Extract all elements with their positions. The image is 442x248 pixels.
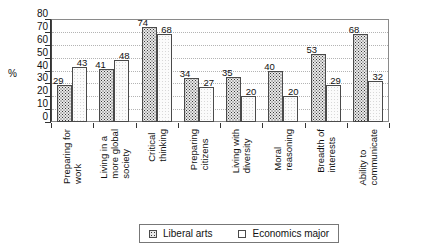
bar: 35 <box>226 77 241 122</box>
bar-value-label: 29 <box>330 76 341 86</box>
legend-item-2: Economics major <box>238 228 329 239</box>
x-category-text: Moralreasoning <box>272 129 294 171</box>
x-tickmark <box>347 123 348 128</box>
bar-value-label: 53 <box>307 45 318 55</box>
x-category-text: Living in amore globalsociety <box>98 129 131 179</box>
bar: 20 <box>283 96 298 122</box>
y-tickmark <box>45 109 51 110</box>
y-tick-30: 30 <box>37 73 48 83</box>
bar: 20 <box>241 96 256 122</box>
bar: 29 <box>57 85 72 122</box>
bar-group: 6832 <box>347 19 389 122</box>
y-tickmark <box>45 58 51 59</box>
y-tick-60: 60 <box>37 35 48 45</box>
x-category-text: Living withdiversity <box>230 129 252 173</box>
x-axis-category-labels: Preparing forworkLiving in amore globals… <box>51 129 389 191</box>
y-tickmark <box>45 96 51 97</box>
y-tick-40: 40 <box>37 61 48 71</box>
bar-value-label: 34 <box>180 69 191 79</box>
y-tick-50: 50 <box>37 48 48 58</box>
bar: 34 <box>184 78 199 122</box>
bar: 40 <box>268 71 283 123</box>
x-category-line: interests <box>326 129 337 173</box>
bar: 41 <box>99 69 114 122</box>
bar: 48 <box>114 60 129 122</box>
bar: 68 <box>353 34 368 122</box>
x-category-line: Living with <box>230 129 241 173</box>
x-category-6: Moralreasoning <box>262 129 304 191</box>
x-category-8: Ability tocommunicate <box>347 129 389 191</box>
legend-swatch-icon <box>149 230 157 238</box>
bar: 43 <box>72 67 87 122</box>
x-tickmark <box>262 123 263 128</box>
y-tick-20: 20 <box>37 86 48 96</box>
y-tick-80: 80 <box>37 9 48 19</box>
bar-value-label: 40 <box>264 62 275 72</box>
x-category-line: reasoning <box>283 129 294 171</box>
x-category-line: communicate <box>368 129 379 186</box>
y-tickmark <box>45 32 51 33</box>
bar-group: 7468 <box>136 19 178 122</box>
y-tickmark <box>45 45 51 46</box>
x-category-7: Breadth ofinterests <box>305 129 347 191</box>
x-category-1: Preparing forwork <box>51 129 93 191</box>
x-category-text: Criticalthinking <box>146 129 168 162</box>
x-tickmark <box>220 123 221 128</box>
y-tick-0: 0 <box>42 112 48 122</box>
bar-value-label: 68 <box>349 25 360 35</box>
y-tickmark <box>45 83 51 84</box>
x-category-line: Living in a <box>98 129 109 179</box>
bar-value-label: 43 <box>77 58 88 68</box>
x-category-line: citizens <box>199 129 210 170</box>
x-tickmark <box>136 123 137 128</box>
x-tickmark <box>305 123 306 128</box>
chart-figure: % 80706050403020100 29434148746834273520… <box>0 0 442 248</box>
x-category-line: Critical <box>146 129 157 162</box>
bar-value-label: 48 <box>119 51 130 61</box>
x-category-line: society <box>120 129 131 179</box>
chart-legend: Liberal artsEconomics major <box>139 224 339 243</box>
bar-group: 3520 <box>220 19 262 122</box>
y-tickmark <box>45 19 51 20</box>
bar-value-label: 32 <box>372 72 383 82</box>
x-category-line: work <box>72 129 83 184</box>
bar-value-label: 29 <box>53 76 64 86</box>
x-category-text: Preparing forwork <box>61 129 83 184</box>
x-category-2: Living in amore globalsociety <box>93 129 135 191</box>
x-category-line: Breadth of <box>315 129 326 173</box>
bar-value-label: 27 <box>203 78 214 88</box>
legend-item-1: Liberal arts <box>149 228 212 239</box>
x-category-line: Preparing for <box>61 129 72 184</box>
bar-group: 4020 <box>262 19 304 122</box>
x-tickmark <box>178 123 179 128</box>
bar-value-label: 68 <box>161 25 172 35</box>
bar-value-label: 41 <box>95 60 106 70</box>
x-category-line: Moral <box>272 129 283 171</box>
x-category-line: Preparing <box>188 129 199 170</box>
x-category-5: Living withdiversity <box>220 129 262 191</box>
y-tickmark <box>45 71 51 72</box>
x-category-3: Criticalthinking <box>136 129 178 191</box>
x-tickmark <box>389 123 390 128</box>
x-category-text: Ability tocommunicate <box>357 129 379 186</box>
legend-label: Liberal arts <box>163 228 212 239</box>
legend-swatch-icon <box>238 230 246 238</box>
bar: 74 <box>142 27 157 122</box>
x-tickmark <box>51 123 52 128</box>
bar: 27 <box>199 87 214 122</box>
bar-value-label: 20 <box>288 87 299 97</box>
x-category-line: diversity <box>241 129 252 173</box>
x-category-text: Preparingcitizens <box>188 129 210 170</box>
y-axis-label: % <box>8 68 17 79</box>
y-tick-10: 10 <box>37 99 48 109</box>
bar: 29 <box>326 85 341 122</box>
bar-group: 3427 <box>178 19 220 122</box>
y-tick-70: 70 <box>37 22 48 32</box>
x-category-line: thinking <box>157 129 168 162</box>
bar-group: 5329 <box>305 19 347 122</box>
bar-group: 4148 <box>93 19 135 122</box>
bar: 32 <box>368 81 383 122</box>
bar-value-label: 74 <box>138 18 149 28</box>
bar-value-label: 20 <box>246 87 257 97</box>
x-category-line: Ability to <box>357 129 368 186</box>
